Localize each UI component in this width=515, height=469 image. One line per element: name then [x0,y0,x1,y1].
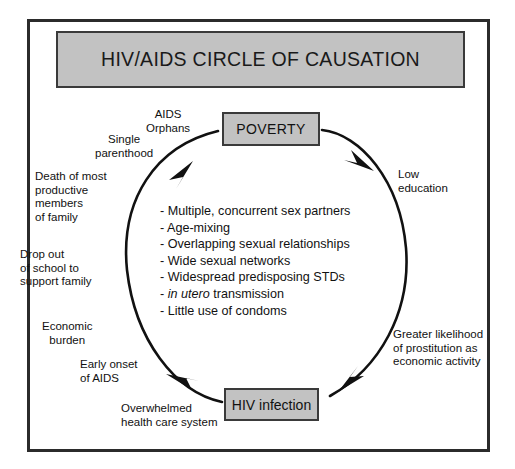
arrowhead-upper-left [169,161,193,189]
list-bullet: - [160,254,168,268]
list-item-text: Age-mixing [167,221,230,235]
list-item: - in utero transmission [160,286,375,303]
list-item: - Multiple, concurrent sex partners [160,203,375,220]
list-item: - Wide sexual networks [160,253,375,270]
label-greater-likelihood-of-prostitution: Greater likelihood of prostitution as ec… [393,328,483,369]
arrowhead-lower-right [338,366,364,392]
list-bullet: - [160,204,168,218]
list-item: - Little use of condoms [160,303,375,320]
list-item: - Age-mixing [160,220,375,237]
label-death-of-most-productive-members-of-family: Death of most productive members of fami… [35,170,107,224]
label-low-education: Low education [398,168,448,195]
arrowhead-upper-right [344,150,374,171]
list-bullet: - [160,270,168,284]
list-bullet: - [160,237,168,251]
node-hiv-infection-label: HIV infection [232,397,311,413]
list-bullet: - [160,304,168,318]
list-bullet: - [160,287,168,301]
label-drop-out-of-school-to-support-family: Drop out of school to support family [20,248,92,289]
list-item-text: Little use of condoms [168,304,287,318]
label-economic-burden: Economic burden [42,320,93,347]
label-aids-orphans: AIDS Orphans [146,108,190,135]
list-item-text: Multiple, concurrent sex partners [168,204,351,218]
label-overwhelmed-health-care-system: Overwhelmed health care system [121,402,218,429]
label-early-onset-of-aids: Early onset of AIDS [80,358,138,385]
list-item-text: Widespread predisposing STDs [168,270,345,284]
node-hiv-infection: HIV infection [224,388,319,421]
arrowhead-lower-left [166,374,199,390]
list-item: - Widespread predisposing STDs [160,269,375,286]
center-risk-factor-list: - Multiple, concurrent sex partners- Age… [160,203,375,319]
list-item: - Overlapping sexual relationships [160,236,375,253]
list-item-text: transmission [210,287,284,301]
node-poverty-label: POVERTY [236,121,305,137]
list-bullet: - [160,221,167,235]
node-poverty: POVERTY [222,112,320,146]
diagram-canvas: HIV/AIDS CIRCLE OF CAUSATION POVERTY HIV… [0,0,515,469]
label-single-parenthood: Single parenthood [95,133,153,160]
list-item-text: Overlapping sexual relationships [168,237,350,251]
list-item-text: Wide sexual networks [168,254,291,268]
list-item-text-italic: in utero [168,287,210,301]
